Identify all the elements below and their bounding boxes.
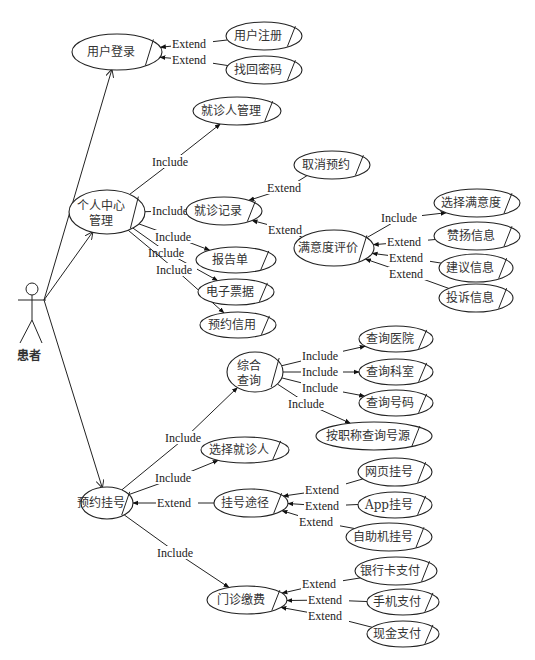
actor-label: 患者 <box>17 348 41 363</box>
use-case-diagram: ExtendExtendIncludeIncludeIncludeInclude… <box>0 0 535 660</box>
use-case-patient_mgmt[interactable]: 就诊人管理 <box>193 97 281 125</box>
actor-head-icon <box>26 283 38 295</box>
association-line <box>44 232 92 300</box>
use-case-payment[interactable]: 门诊缴费 <box>207 586 287 614</box>
include-label: Include <box>156 263 192 277</box>
include-label: Include <box>288 397 324 411</box>
use-case-label: 查询号码 <box>366 396 414 410</box>
association-line <box>44 300 102 487</box>
use-case-login[interactable]: 用户登录 <box>72 34 162 70</box>
use-case-label: 手机支付 <box>373 595 421 609</box>
use-case-credit[interactable]: 预约信用 <box>200 312 276 338</box>
use-case-label: 找回密码 <box>234 62 282 77</box>
actor-leg-left-icon <box>20 320 32 343</box>
extend-label: Extend <box>305 499 339 513</box>
use-case-label: 选择就诊人 <box>209 443 269 457</box>
actor-patient[interactable]: 患者 <box>17 283 46 363</box>
actor-associations <box>44 70 112 487</box>
include-label: Include <box>152 155 188 169</box>
extend-label: Extend <box>387 235 421 249</box>
use-case-kiosk[interactable]: 自助机挂号 <box>346 523 432 551</box>
use-case-label: 预约挂号 <box>77 495 125 510</box>
include-label: Include <box>302 365 338 379</box>
use-case-label: 用户登录 <box>87 44 135 59</box>
use-case-bank[interactable]: 银行卡支付 <box>355 557 437 585</box>
use-case-choose_sat[interactable]: 选择满意度 <box>434 189 520 217</box>
use-case-label: 建议信息 <box>446 260 494 275</box>
use-case-recover[interactable]: 找回密码 <box>226 56 302 84</box>
use-case-label: 门诊缴费 <box>217 592 265 607</box>
include-label: Include <box>155 471 191 485</box>
use-case-app[interactable]: App挂号 <box>358 492 432 518</box>
use-case-label: 投诉信息 <box>446 290 494 305</box>
use-cases: 用户登录用户注册找回密码个人中心管理就诊人管理就诊记录取消预约满意度评价选择满意… <box>69 22 520 647</box>
extend-label: Extend <box>172 37 206 51</box>
use-case-label: App挂号 <box>364 498 413 512</box>
extend-label: Extend <box>389 251 423 265</box>
use-case-label: 赞扬信息 <box>447 228 495 243</box>
extend-label: Extend <box>172 53 206 67</box>
use-case-cancel[interactable]: 取消预约 <box>294 151 370 179</box>
use-case-label: 查询科室 <box>366 364 414 379</box>
extend-label: Extend <box>308 609 342 623</box>
use-case-label: 报告单 <box>212 252 248 267</box>
extend-label: Extend <box>267 181 301 195</box>
extend-label: Extend <box>268 223 302 237</box>
use-case-label-line2: 管理 <box>89 213 113 228</box>
use-case-label: 就诊人管理 <box>201 103 261 118</box>
include-label: Include <box>155 230 191 244</box>
use-case-booking[interactable]: 预约挂号 <box>77 487 133 519</box>
include-label: Include <box>157 546 193 560</box>
use-case-label: 按职称查询号源 <box>326 429 410 443</box>
use-case-label: 现金支付 <box>373 626 421 641</box>
use-case-label: 挂号途径 <box>221 495 269 510</box>
association-line <box>44 70 112 300</box>
extend-label: Extend <box>302 577 336 591</box>
use-case-label: 取消预约 <box>302 157 350 172</box>
include-label: Include <box>148 246 184 260</box>
include-label: Include <box>165 431 201 445</box>
use-case-mobile[interactable]: 手机支付 <box>367 589 439 615</box>
use-case-q_title[interactable]: 按职称查询号源 <box>316 422 432 450</box>
use-case-search[interactable]: 综合查询 <box>227 352 283 392</box>
use-case-label: 个人中心 <box>77 198 125 213</box>
use-case-register[interactable]: 用户注册 <box>226 22 302 50</box>
actor-leg-right-icon <box>32 320 42 343</box>
use-case-q_dept[interactable]: 查询科室 <box>359 359 433 385</box>
use-case-label: 用户注册 <box>234 28 282 43</box>
extend-label: Extend <box>305 483 339 497</box>
use-case-report[interactable]: 报告单 <box>196 247 276 273</box>
use-case-records[interactable]: 就诊记录 <box>186 197 262 225</box>
extend-label: Extend <box>389 267 423 281</box>
use-case-label: 满意度评价 <box>298 240 358 255</box>
use-case-choose_patient[interactable]: 选择就诊人 <box>201 437 289 463</box>
extend-label: Extend <box>299 515 333 529</box>
use-case-label: 预约信用 <box>208 317 256 332</box>
include-label: Include <box>302 381 338 395</box>
use-case-label: 银行卡支付 <box>360 564 420 578</box>
use-case-q_number[interactable]: 查询号码 <box>359 390 433 416</box>
use-case-label: 网页挂号 <box>365 465 413 479</box>
use-case-web[interactable]: 网页挂号 <box>358 458 432 486</box>
use-case-ebill[interactable]: 电子票据 <box>198 279 274 305</box>
include-label: Include <box>152 204 188 218</box>
use-case-suggest[interactable]: 建议信息 <box>439 254 513 282</box>
use-case-label: 查询医院 <box>366 332 414 346</box>
use-case-personal[interactable]: 个人中心管理 <box>69 190 145 234</box>
use-case-label: 就诊记录 <box>194 204 242 218</box>
use-case-channel[interactable]: 挂号途径 <box>214 489 288 517</box>
use-case-label: 综合 <box>237 358 261 373</box>
use-case-label: 选择满意度 <box>441 195 501 210</box>
include-label: Include <box>381 211 417 225</box>
use-case-q_hospital[interactable]: 查询医院 <box>359 326 433 352</box>
extend-label: Extend <box>157 496 191 510</box>
extend-label: Extend <box>308 593 342 607</box>
include-label: Include <box>302 349 338 363</box>
use-case-praise[interactable]: 赞扬信息 <box>434 222 520 250</box>
use-case-label-line2: 查询 <box>237 374 261 388</box>
use-case-label: 自助机挂号 <box>353 530 413 544</box>
use-case-cash[interactable]: 现金支付 <box>367 621 439 647</box>
use-case-satisfaction[interactable]: 满意度评价 <box>294 230 374 266</box>
use-case-complain[interactable]: 投诉信息 <box>439 284 513 312</box>
use-case-label: 电子票据 <box>206 285 254 299</box>
